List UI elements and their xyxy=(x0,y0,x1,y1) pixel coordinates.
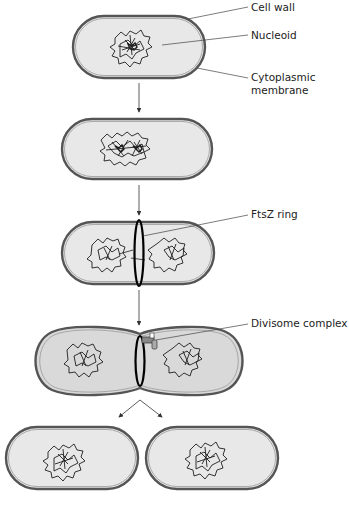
cell-stage-1 xyxy=(73,16,205,78)
label-cell-wall: Cell wall xyxy=(251,1,295,14)
label-divisome-complex: Divisome complex xyxy=(251,317,348,330)
label-nucleoid: Nucleoid xyxy=(251,29,297,42)
daughter-cell-right xyxy=(146,427,278,489)
cell-stage-2 xyxy=(62,119,212,179)
daughter-cell-left xyxy=(6,427,138,489)
label-cytoplasmic-membrane-line1: Cytoplasmic xyxy=(251,71,316,84)
arrow-to-daughter-right xyxy=(140,400,162,417)
figure-caption xyxy=(0,496,349,506)
label-ftsz-ring: FtsZ ring xyxy=(251,208,298,221)
cell-stage-4 xyxy=(36,327,243,395)
cell-stage-3 xyxy=(62,220,214,286)
label-cytoplasmic-membrane-line2: membrane xyxy=(251,84,308,97)
arrow-to-daughter-left xyxy=(119,400,140,417)
